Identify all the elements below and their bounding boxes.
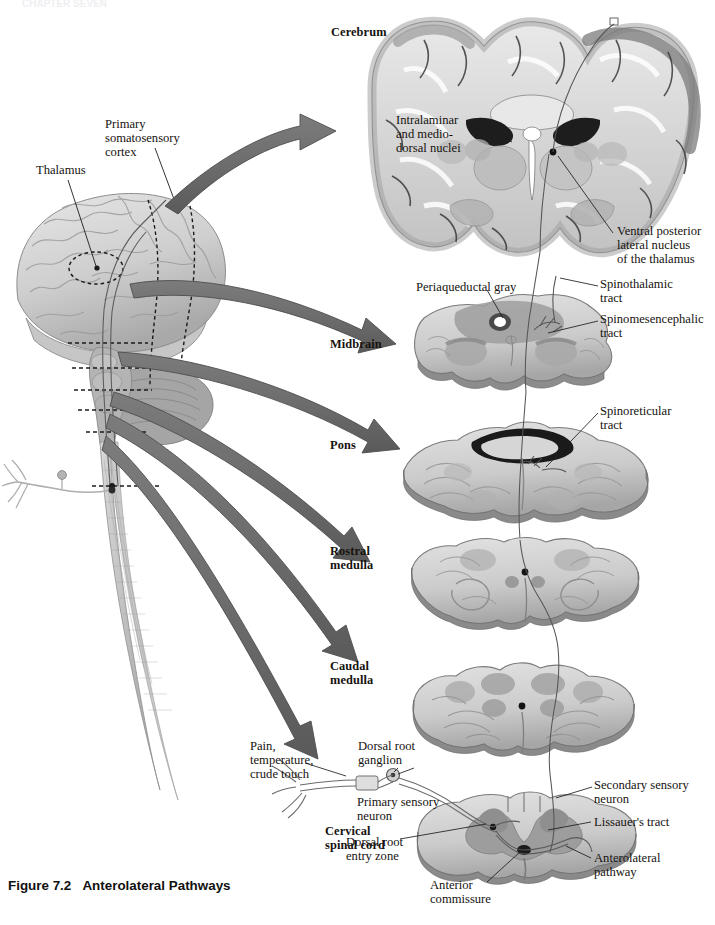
figure-caption: Figure 7.2 Anterolateral Pathways	[8, 878, 231, 893]
label-primary-somatosensory-cortex: Primary somatosensory cortex	[105, 117, 180, 160]
midbrain-cross-section	[415, 252, 612, 392]
peripheral-sensory-neuron	[2, 460, 112, 508]
label-cerebrum: Cerebrum	[331, 25, 387, 39]
caudal-medulla-cross-section	[413, 648, 634, 774]
label-midbrain: Midbrain	[330, 337, 382, 351]
label-pons: Pons	[330, 438, 356, 452]
label-intralaminar-mediodorsal-nuclei: Intralaminar and medio- dorsal nuclei	[396, 113, 461, 156]
label-spinomesencephalic-tract: Spinomesencephalic tract	[600, 312, 704, 340]
label-thalamus: Thalamus	[36, 163, 86, 177]
label-caudal-medulla: Caudal medulla	[330, 659, 373, 687]
label-rostral-medulla: Rostral medulla	[330, 544, 373, 572]
figure-title: Anterolateral Pathways	[82, 878, 230, 893]
label-spinothalamic-tract: Spinothalamic tract	[600, 277, 673, 305]
label-dorsal-root-entry-zone: Dorsal root entry zone	[346, 835, 403, 863]
figure-canvas: CHAPTER SEVEN	[0, 0, 715, 925]
cervical-spinal-cord-cross-section	[272, 760, 636, 884]
rostral-medulla-cross-section	[412, 538, 639, 649]
arrow-to-cerebrum	[165, 114, 336, 214]
label-dorsal-root-ganglion: Dorsal root ganglion	[358, 739, 415, 767]
label-ventral-posterior-lateral-nucleus: Ventral posterior lateral nucleus of the…	[617, 224, 701, 267]
label-anterior-commissure: Anterior commissure	[430, 878, 491, 906]
label-periaqueductal-gray: Periaqueductal gray	[416, 280, 516, 294]
figure-number: Figure 7.2	[8, 878, 71, 893]
label-pain-temperature-crude-touch: Pain, temperature, crude touch	[250, 739, 313, 782]
label-anterolateral-pathway: Anterolateral pathway	[594, 851, 660, 879]
label-spinoreticular-tract: Spinoreticular tract	[600, 404, 671, 432]
label-secondary-sensory-neuron: Secondary sensory neuron	[594, 778, 689, 806]
label-lissauers-tract: Lissauer's tract	[594, 815, 669, 829]
label-primary-sensory-neuron: Primary sensory neuron	[357, 795, 439, 823]
